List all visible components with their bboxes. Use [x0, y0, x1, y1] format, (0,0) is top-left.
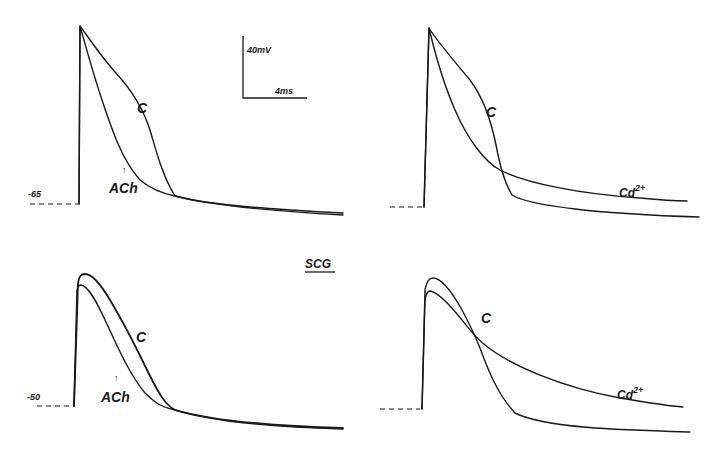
panel-top-left: -65 C ↑ ACh: [28, 26, 343, 215]
resting-potential-label: -65: [28, 189, 42, 199]
cd-superscript: 2+: [634, 183, 646, 193]
scg-label: SCG: [305, 257, 331, 271]
scale-time-label: 4ms: [274, 86, 293, 96]
action-potential-figure: -65 C ↑ ACh 40mV 4ms C Cd2+ SCG -50 C ↑ …: [0, 0, 715, 458]
trace-cd: [424, 28, 687, 207]
scale-voltage-label: 40mV: [246, 45, 272, 55]
control-label: C: [481, 310, 492, 326]
panel-bottom-right: C Cd2+: [380, 278, 690, 432]
ach-arrow-icon: ↑: [122, 165, 127, 175]
cd-label: Cd2+: [617, 385, 644, 402]
control-label: C: [136, 329, 147, 345]
resting-potential-label: -50: [27, 392, 40, 402]
group-label: SCG: [305, 257, 335, 272]
cd-text: Cd: [619, 186, 636, 200]
panel-bottom-left: -50 C ↑ ACh: [27, 274, 343, 429]
control-label: C: [137, 100, 148, 116]
ach-arrow-icon: ↑: [114, 373, 119, 383]
cd-superscript: 2+: [632, 385, 644, 395]
cd-label: Cd2+: [619, 183, 646, 200]
cd-text: Cd: [617, 388, 634, 402]
ach-label: ACh: [100, 389, 130, 405]
scale-bar: 40mV 4ms: [243, 36, 307, 98]
panel-top-right: C Cd2+: [390, 28, 699, 217]
control-label: C: [486, 104, 497, 120]
trace-control: [422, 278, 690, 432]
ach-label: ACh: [108, 180, 138, 196]
